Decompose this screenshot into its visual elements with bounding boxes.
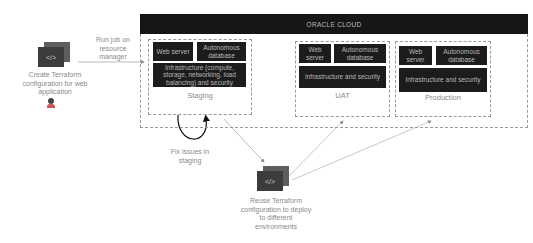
uat-web-server: Web server [299,44,331,63]
uat-label: UAT [295,91,390,100]
staging-web-server: Web server [153,42,193,61]
oracle-cloud-header: ORACLE CLOUD [140,14,528,34]
staging-autonomous-database: Autonomous database [197,42,246,61]
production-label: Production [395,93,491,102]
uat-autonomous-database: Autonomous database [334,44,386,63]
create-terraform-label: Create Terraform configuration for web a… [20,71,90,97]
uat-infrastructure: Infrastructure and security [299,66,386,88]
fix-issues-label: Fix issues in staging [170,148,210,165]
production-web-server: Web server [399,46,432,65]
staging-infrastructure: Infrastructure (compute, storage, networ… [153,63,246,87]
left-terraform-icon: </> [38,42,70,68]
production-autonomous-database: Autonomous database [436,46,487,65]
run-job-label: Run job on resource manager [88,36,138,62]
staging-label: Staging [148,91,252,100]
user-icon [47,98,55,108]
production-infrastructure: Infrastructure and security [399,68,487,92]
reuse-terraform-label: Reuse Terraform configuration to deploy … [240,197,312,231]
reuse-terraform-icon: </> [257,166,289,192]
